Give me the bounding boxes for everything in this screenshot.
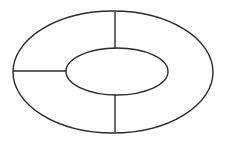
annulus-diagram: Annulus divided into three sectors [0,0,237,141]
